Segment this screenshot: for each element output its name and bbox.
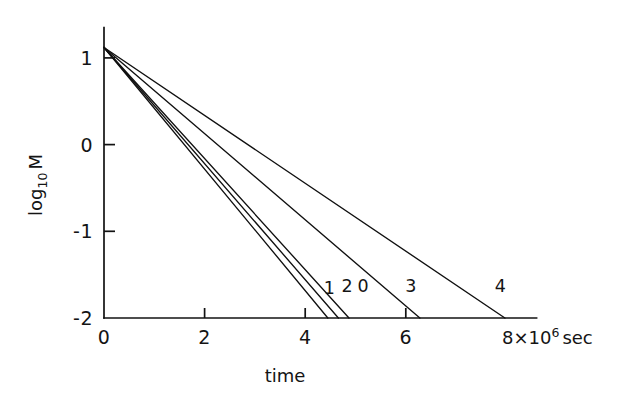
series-label-3: 3 [405, 276, 416, 296]
data-series-4 [104, 48, 505, 319]
y-axis-title-subscript: 10 [35, 173, 50, 189]
data-series-3 [104, 48, 420, 319]
data-series-0 [104, 48, 349, 319]
chart-figure: 10-1-2 0246 12034 time 8×106sec log10M [0, 0, 642, 398]
series-labels-group: 12034 [324, 276, 506, 298]
y-tick-label--2: -2 [73, 307, 93, 329]
data-series-1 [104, 48, 328, 319]
y-tick-label-0: 0 [80, 134, 93, 156]
x-axis-units: 8×106sec [502, 325, 593, 348]
y-axis-tick-labels: 10-1-2 [73, 47, 93, 329]
x-axis-units-tail: sec [562, 327, 592, 348]
x-axis-ticks [205, 308, 406, 318]
series-label-1: 1 [324, 278, 335, 298]
series-label-0: 0 [357, 276, 368, 296]
y-tick-label-1: 1 [80, 47, 93, 69]
y-tick-label--1: -1 [73, 220, 93, 242]
series-label-2: 2 [341, 276, 352, 296]
data-series-group [104, 48, 505, 319]
x-axis-units-exponent: 6 [551, 325, 559, 340]
axes-group [104, 28, 537, 318]
x-tick-label-2: 2 [198, 326, 211, 348]
y-axis-title-group: log10M [25, 154, 50, 216]
x-axis-title: time [265, 365, 306, 386]
series-label-4: 4 [495, 276, 506, 296]
x-tick-label-0: 0 [98, 326, 111, 348]
x-axis-tick-labels: 0246 [98, 326, 412, 348]
chart-svg: 10-1-2 0246 12034 time 8×106sec log10M [0, 0, 642, 398]
y-axis-title-main: log [25, 188, 46, 215]
y-axis-title: log10M [25, 154, 50, 216]
x-tick-label-6: 6 [400, 326, 413, 348]
y-axis-title-tail: M [25, 154, 46, 170]
x-axis-units-base: 8×10 [502, 327, 551, 348]
x-tick-label-4: 4 [299, 326, 312, 348]
y-axis-ticks [104, 58, 115, 231]
